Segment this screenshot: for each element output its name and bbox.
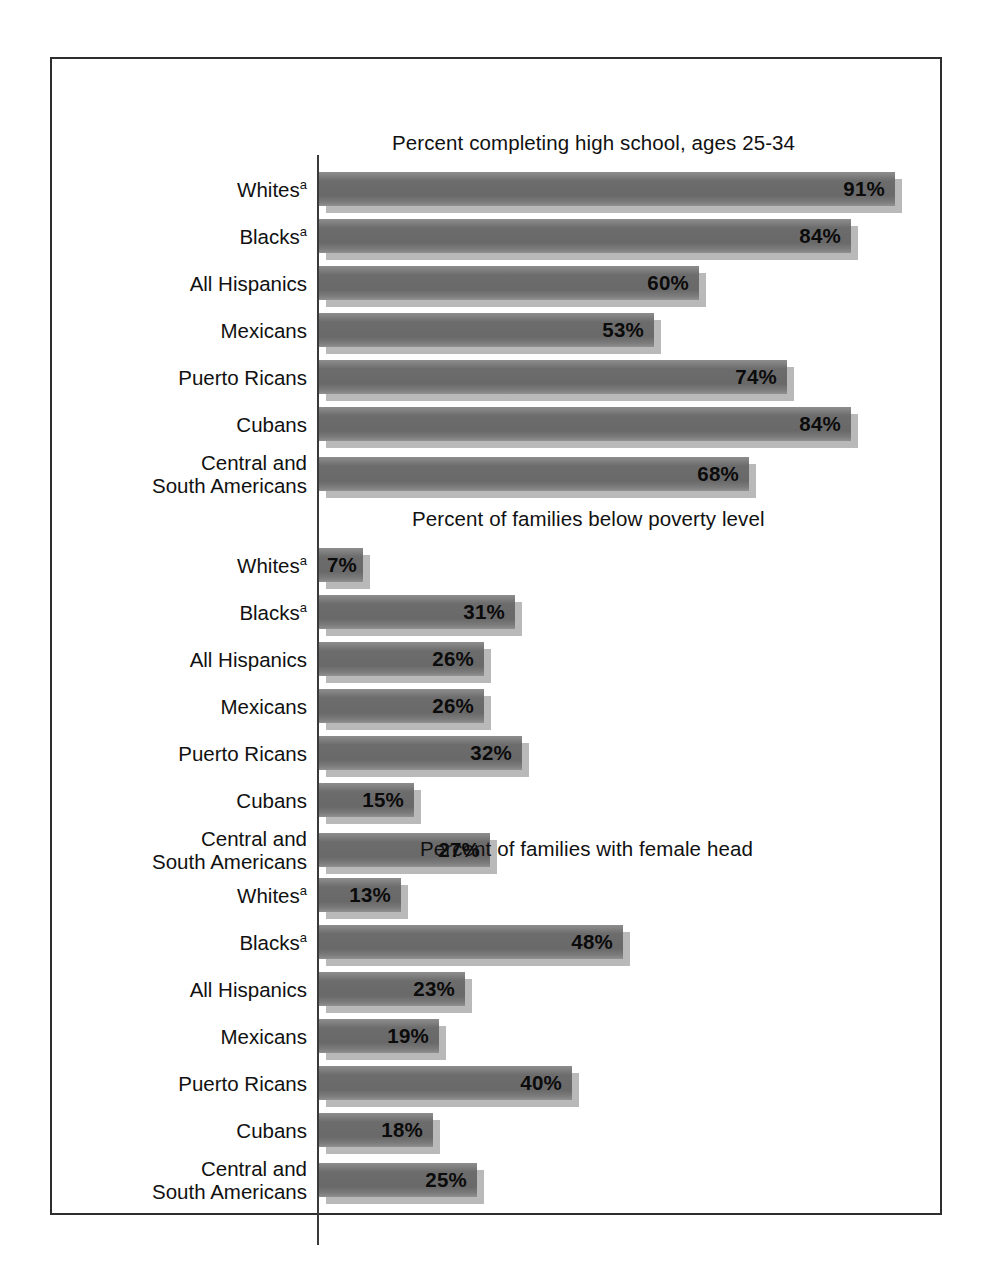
bar-row: All Hispanics26% bbox=[52, 635, 992, 682]
bar: 32% bbox=[319, 736, 522, 770]
category-label-line1: Cubans bbox=[236, 412, 307, 435]
bar-row: Mexicans26% bbox=[52, 682, 992, 729]
bar-value-label: 15% bbox=[362, 788, 404, 812]
chart-panel-female-head: Percent of families with female head Whi… bbox=[52, 837, 992, 1257]
bar-row: All Hispanics60% bbox=[52, 259, 992, 306]
bar-value-label: 91% bbox=[843, 177, 885, 201]
bar-value-label: 18% bbox=[381, 1118, 423, 1142]
bar: 53% bbox=[319, 313, 654, 347]
bar-value-label: 74% bbox=[735, 365, 777, 389]
bar-value-label: 84% bbox=[799, 412, 841, 436]
category-label: Puerto Ricans bbox=[178, 741, 307, 764]
panel-title: Percent of families below poverty level bbox=[412, 507, 765, 531]
footnote-marker: a bbox=[300, 223, 307, 238]
category-label-line1: Cubans bbox=[236, 1118, 307, 1141]
category-label: Whitesa bbox=[237, 177, 307, 200]
category-label: Whitesa bbox=[237, 553, 307, 576]
category-label: Cubans bbox=[236, 412, 307, 435]
bar: 91% bbox=[319, 172, 895, 206]
bar-rows: Whitesa7%Blacksa31%All Hispanics26%Mexic… bbox=[52, 541, 992, 876]
category-label-line1: Central and bbox=[201, 1157, 307, 1180]
category-label-line1: Mexicans bbox=[220, 1024, 307, 1047]
bar: 84% bbox=[319, 407, 851, 441]
bar-value-label: 26% bbox=[432, 647, 474, 671]
bar: 40% bbox=[319, 1066, 572, 1100]
bar-value-label: 13% bbox=[349, 883, 391, 907]
bar-value-label: 31% bbox=[463, 600, 505, 624]
bar: 18% bbox=[319, 1113, 433, 1147]
bar-value-label: 53% bbox=[602, 318, 644, 342]
bar-value-label: 26% bbox=[432, 694, 474, 718]
bar: 68% bbox=[319, 457, 749, 491]
bar: 31% bbox=[319, 595, 515, 629]
category-label-line2: South Americans bbox=[152, 1180, 307, 1203]
bar: 25% bbox=[319, 1163, 477, 1197]
category-label: Blacksa bbox=[239, 600, 307, 623]
bar-fill bbox=[319, 266, 699, 300]
bar-rows: Whitesa13%Blacksa48%All Hispanics23%Mexi… bbox=[52, 871, 992, 1206]
category-label-line1: Blacks bbox=[239, 224, 299, 247]
bar-value-label: 19% bbox=[387, 1024, 429, 1048]
bar-value-label: 84% bbox=[799, 224, 841, 248]
chart-panel-poverty: Percent of families below poverty level … bbox=[52, 507, 992, 817]
category-label-line1: All Hispanics bbox=[190, 977, 307, 1000]
category-label-line1: All Hispanics bbox=[190, 271, 307, 294]
bar: 13% bbox=[319, 878, 401, 912]
category-label: Cubans bbox=[236, 788, 307, 811]
category-label-line1: Puerto Ricans bbox=[178, 365, 307, 388]
category-label: All Hispanics bbox=[190, 647, 307, 670]
category-label-line1: Puerto Ricans bbox=[178, 1071, 307, 1094]
bar-row: Cubans84% bbox=[52, 400, 992, 447]
category-label: Mexicans bbox=[220, 318, 307, 341]
panel-title: Percent of families with female head bbox=[420, 837, 753, 861]
bar-row: All Hispanics23% bbox=[52, 965, 992, 1012]
bar-row: Blacksa84% bbox=[52, 212, 992, 259]
category-label: Cubans bbox=[236, 1118, 307, 1141]
bar-row: Blacksa31% bbox=[52, 588, 992, 635]
figure-frame: Percent completing high school, ages 25-… bbox=[50, 57, 942, 1215]
bar-row: Puerto Ricans32% bbox=[52, 729, 992, 776]
category-label-line1: Mexicans bbox=[220, 318, 307, 341]
category-label-line1: Whites bbox=[237, 883, 300, 906]
footnote-marker: a bbox=[300, 176, 307, 191]
bar-fill bbox=[319, 407, 851, 441]
figure-page: Percent completing high school, ages 25-… bbox=[0, 0, 992, 1265]
bar-row: Puerto Ricans40% bbox=[52, 1059, 992, 1106]
category-label-line1: Whites bbox=[237, 177, 300, 200]
bar-value-label: 7% bbox=[327, 553, 357, 577]
bar-row: Cubans18% bbox=[52, 1106, 992, 1153]
category-label-line1: Central and bbox=[201, 451, 307, 474]
bar-value-label: 40% bbox=[520, 1071, 562, 1095]
bar-row: Central andSouth Americans68% bbox=[52, 447, 992, 500]
bar-row: Whitesa13% bbox=[52, 871, 992, 918]
chart-panel-high-school: Percent completing high school, ages 25-… bbox=[52, 131, 992, 499]
bar: 23% bbox=[319, 972, 465, 1006]
category-label-line1: Blacks bbox=[239, 600, 299, 623]
bar: 60% bbox=[319, 266, 699, 300]
category-label: Blacksa bbox=[239, 930, 307, 953]
bar-row: Mexicans53% bbox=[52, 306, 992, 353]
bar: 26% bbox=[319, 642, 484, 676]
bar-value-label: 60% bbox=[647, 271, 689, 295]
category-label-line2: South Americans bbox=[152, 474, 307, 497]
footnote-marker: a bbox=[300, 552, 307, 567]
bar-rows: Whitesa91%Blacksa84%All Hispanics60%Mexi… bbox=[52, 165, 992, 500]
category-label-line1: Cubans bbox=[236, 788, 307, 811]
category-label: Whitesa bbox=[237, 883, 307, 906]
bar-fill bbox=[319, 360, 787, 394]
footnote-marker: a bbox=[300, 929, 307, 944]
bar-value-label: 25% bbox=[425, 1168, 467, 1192]
bar: 84% bbox=[319, 219, 851, 253]
bar-row: Cubans15% bbox=[52, 776, 992, 823]
bar-row: Central andSouth Americans25% bbox=[52, 1153, 992, 1206]
bar: 19% bbox=[319, 1019, 439, 1053]
category-label: Mexicans bbox=[220, 694, 307, 717]
panel-title: Percent completing high school, ages 25-… bbox=[392, 131, 795, 155]
bar: 15% bbox=[319, 783, 414, 817]
category-label-line1: Mexicans bbox=[220, 694, 307, 717]
bar-value-label: 23% bbox=[413, 977, 455, 1001]
category-label: Mexicans bbox=[220, 1024, 307, 1047]
footnote-marker: a bbox=[300, 882, 307, 897]
bar: 74% bbox=[319, 360, 787, 394]
category-label: Central andSouth Americans bbox=[152, 1157, 307, 1203]
